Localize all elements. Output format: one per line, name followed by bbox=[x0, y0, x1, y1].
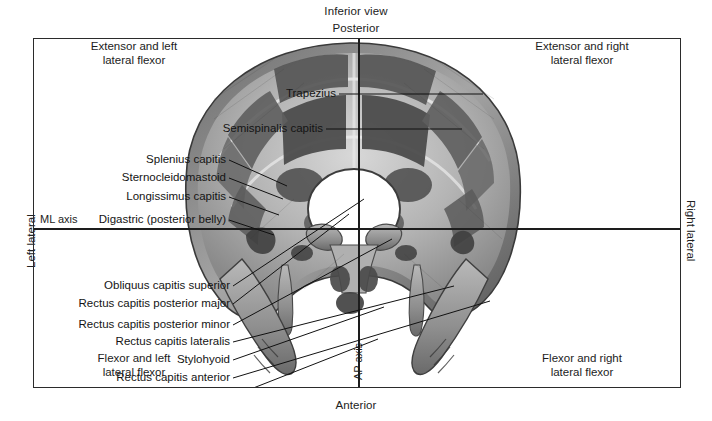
attachment-longus-capitis bbox=[336, 292, 364, 314]
attachment-rectus-capitis-anterior-left bbox=[330, 266, 350, 292]
muscle-label-splenius-capitis: Splenius capitis bbox=[34, 153, 226, 165]
muscle-label-longissimus-capitis: Longissimus capitis bbox=[34, 190, 226, 202]
quadrant-label-top-left: Extensor and left lateral flexor bbox=[34, 39, 234, 67]
attachment-rectus-capitis-lateralis-left bbox=[291, 245, 313, 261]
caption-inferior-view: Inferior view bbox=[0, 5, 712, 17]
quadrant-label-bottom-right: Flexor and right lateral flexor bbox=[482, 351, 681, 379]
muscle-label-obliquus-capitis-superior: Obliquus capitis superior bbox=[34, 279, 230, 291]
caption-right-lateral: Right lateral bbox=[685, 200, 697, 261]
muscle-label-sternocleidomastoid: Sternocleidomastoid bbox=[34, 171, 226, 183]
ap-axis-line bbox=[358, 39, 360, 388]
diagram-frame: ML axis AP axis Extensor and left latera… bbox=[33, 38, 681, 388]
muscle-label-digastric-posterior-belly: Digastric (posterior belly) bbox=[34, 213, 226, 225]
muscle-label-rectus-capitis-anterior: Rectus capitis anterior bbox=[34, 371, 230, 383]
muscle-label-rectus-capitis-lateralis: Rectus capitis lateralis bbox=[34, 335, 230, 347]
figure-canvas: Inferior view Posterior Anterior Left la… bbox=[0, 0, 712, 421]
muscle-label-rectus-capitis-posterior-major: Rectus capitis posterior major bbox=[34, 297, 230, 309]
muscle-label-semispinalis-capitis: Semispinalis capitis bbox=[34, 122, 323, 134]
attachment-rectus-capitis-lateralis-right bbox=[395, 245, 417, 261]
caption-posterior: Posterior bbox=[0, 22, 712, 34]
quadrant-label-top-right: Extensor and right lateral flexor bbox=[482, 39, 681, 67]
muscle-label-trapezius: Trapezius bbox=[34, 87, 336, 99]
ap-axis-label: AP axis bbox=[352, 343, 364, 380]
muscle-label-stylohyoid: Stylohyoid bbox=[34, 353, 230, 365]
attachment-rectus-capitis-anterior-right bbox=[358, 266, 378, 292]
caption-anterior: Anterior bbox=[0, 399, 712, 411]
muscle-label-rectus-capitis-posterior-minor: Rectus capitis posterior minor bbox=[34, 318, 230, 330]
